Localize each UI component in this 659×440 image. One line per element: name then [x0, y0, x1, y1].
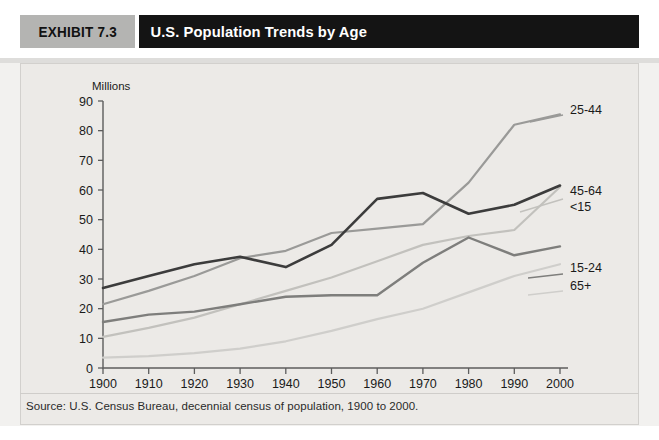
bottom-band [0, 426, 659, 440]
page-title: U.S. Population Trends by Age [139, 23, 367, 41]
exhibit-title-bar: U.S. Population Trends by Age [139, 15, 639, 48]
source-note: Source: U.S. Census Bureau, decennial ce… [26, 400, 418, 412]
exhibit-number-badge: EXHIBIT 7.3 [20, 15, 135, 48]
exhibit-page: EXHIBIT 7.3 U.S. Population Trends by Ag… [0, 0, 659, 440]
exhibit-header: EXHIBIT 7.3 U.S. Population Trends by Ag… [0, 0, 659, 60]
source-divider [20, 393, 639, 394]
chart-panel [20, 63, 639, 425]
exhibit-number-label: EXHIBIT 7.3 [38, 23, 117, 40]
